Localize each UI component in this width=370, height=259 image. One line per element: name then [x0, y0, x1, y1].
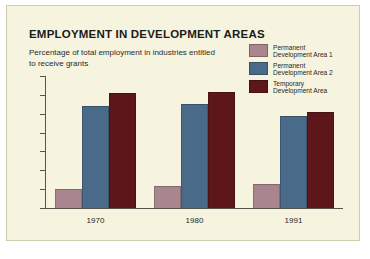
bar-set [46, 76, 145, 208]
bar-set [244, 76, 343, 208]
legend-item: PermanentDevelopment Area 1 [249, 44, 361, 59]
bar [154, 186, 181, 208]
bar [307, 112, 334, 208]
bar [55, 189, 82, 208]
bar [280, 116, 307, 208]
bar [109, 93, 136, 208]
bar [181, 104, 208, 208]
legend-item: PermanentDevelopment Area 2 [249, 62, 361, 77]
x-axis-tick-label: 1980 [145, 216, 244, 225]
y-axis-tick [40, 114, 45, 115]
y-axis-tick [40, 151, 45, 152]
bar-set [145, 76, 244, 208]
chart-title: EMPLOYMENT IN DEVELOPMENT AREAS [29, 28, 265, 40]
legend-swatch [249, 44, 268, 57]
bar-group: 1991 [244, 76, 343, 208]
bar-group: 1980 [145, 76, 244, 208]
chart-subtitle: Percentage of total employment in indust… [29, 48, 219, 69]
bar-group: 1970 [46, 76, 145, 208]
bar [208, 92, 235, 208]
y-axis-tick [40, 208, 45, 209]
x-axis-tick-label: 1991 [244, 216, 343, 225]
x-axis-tick-label: 1970 [46, 216, 145, 225]
y-axis-tick [40, 76, 45, 77]
y-axis-tick [40, 189, 45, 190]
bar [253, 184, 280, 209]
bar-groups: 197019801991 [46, 76, 343, 208]
y-axis-tick [40, 170, 45, 171]
bar [82, 106, 109, 208]
chart-figure: EMPLOYMENT IN DEVELOPMENT AREAS Percenta… [6, 5, 360, 241]
plot-area: 197019801991 [45, 76, 343, 208]
y-axis-tick [40, 95, 45, 96]
legend-label: PermanentDevelopment Area 1 [273, 44, 333, 59]
legend-swatch [249, 62, 268, 75]
legend-label: PermanentDevelopment Area 2 [273, 62, 333, 77]
x-axis-line [45, 208, 343, 209]
y-axis-tick [40, 133, 45, 134]
